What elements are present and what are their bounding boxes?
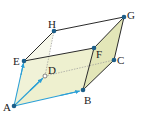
label-h: H — [48, 18, 56, 30]
vertex-a — [12, 104, 17, 109]
label-f: F — [96, 48, 102, 60]
label-b: B — [84, 94, 91, 106]
label-e: E — [13, 55, 20, 67]
parallelepiped-diagram: A B C D E F G H — [0, 0, 141, 115]
vertex-g — [122, 15, 127, 20]
vertex-b — [81, 88, 86, 93]
vertex-c — [112, 58, 117, 63]
label-g: G — [127, 9, 135, 21]
label-a: A — [3, 101, 11, 113]
vertex-e — [22, 59, 27, 64]
label-c: C — [117, 54, 124, 66]
vertex-d — [43, 74, 47, 78]
label-d: D — [48, 64, 56, 76]
